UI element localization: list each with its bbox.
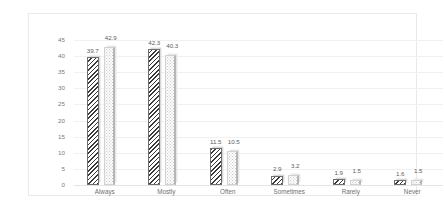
bar-group: 2.93.2Sometimes	[262, 40, 316, 185]
bar-group: 1.91.5Rarely	[324, 40, 378, 185]
bar[interactable]	[394, 180, 406, 185]
data-label: 42.9	[98, 35, 124, 41]
y-axis-tick-label: 10	[43, 150, 65, 156]
bar[interactable]	[87, 57, 99, 185]
bar-group: 11.510.5Often	[201, 40, 255, 185]
bar-group: 39.742.9Always	[78, 40, 132, 185]
y-axis-tick-label: 20	[43, 118, 65, 124]
y-axis-tick-label: 5	[43, 166, 65, 172]
x-axis-category-label: Mostly	[135, 189, 197, 195]
bar[interactable]	[227, 151, 238, 185]
bar[interactable]	[411, 180, 422, 185]
y-axis-tick-label: 15	[43, 134, 65, 140]
bar[interactable]	[104, 47, 115, 185]
x-axis-category-label: Sometimes	[258, 189, 320, 195]
bar[interactable]	[165, 55, 176, 185]
bar-group: 42.340.3Mostly	[139, 40, 193, 185]
y-axis-tick-label: 0	[43, 182, 65, 188]
data-label: 39.7	[80, 48, 106, 54]
x-axis-category-label: Often	[197, 189, 259, 195]
data-label: 40.3	[159, 43, 185, 49]
bar[interactable]	[288, 175, 299, 185]
plot-area: 39.742.9Always42.340.3Mostly11.510.5Ofte…	[74, 40, 443, 185]
chart-frame: 051015202530354045 39.742.9Always42.340.…	[28, 13, 417, 196]
bar[interactable]	[350, 180, 361, 185]
bar[interactable]	[271, 176, 283, 185]
bar-group: 1.61.5Never	[385, 40, 439, 185]
data-label: 1.5	[344, 168, 370, 174]
y-axis-tick-label: 35	[43, 69, 65, 75]
x-axis-category-label: Rarely	[320, 189, 382, 195]
y-axis-tick-label: 30	[43, 85, 65, 91]
data-label: 1.5	[405, 168, 431, 174]
y-axis-tick-label: 40	[43, 53, 65, 59]
y-axis-tick-label: 25	[43, 101, 65, 107]
bar[interactable]	[333, 179, 345, 185]
gridline	[74, 185, 443, 186]
x-axis-category-label: Never	[381, 189, 443, 195]
data-label: 3.2	[282, 163, 308, 169]
x-axis-category-label: Always	[74, 189, 136, 195]
y-axis-tick-label: 45	[43, 37, 65, 43]
bar[interactable]	[148, 49, 160, 185]
bar[interactable]	[210, 148, 222, 185]
data-label: 10.5	[221, 139, 247, 145]
